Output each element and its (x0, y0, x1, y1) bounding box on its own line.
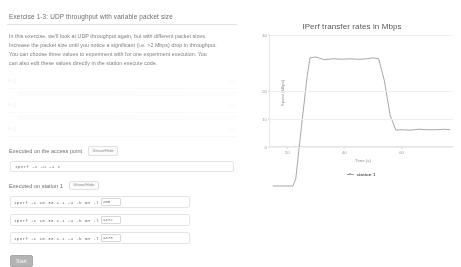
access-point-label: Executed on the access point (9, 148, 82, 154)
chart-x-tick-label: 60 (399, 150, 404, 155)
chart-y-tick-label: 10 (262, 117, 267, 122)
chart-y-tick-mark (268, 119, 270, 120)
collapsed-code-cells: In [ ]: [ ]: In [ ]: [ ]: In [ ]: [ ]: (7, 75, 237, 137)
chart-gridline (270, 91, 453, 92)
chart-x-tick-mark (401, 147, 402, 149)
cell-prompt-left: In [ ]: (8, 78, 17, 83)
title-divider (7, 24, 237, 25)
cell-prompt-right: [ ]: (230, 126, 235, 131)
packet-length-input[interactable] (101, 234, 121, 242)
station-command-prefix: iperf -c 10.33.1.1 -u -b 5M -l (14, 218, 99, 223)
chart-x-tick-label: 20 (285, 150, 290, 155)
exercise-panel: Exercise 1-3: UDP throughput with variab… (0, 0, 243, 266)
description-line-1: In this exercise, we'll look at UDP thro… (9, 32, 237, 41)
chart-y-tick-mark (268, 147, 270, 148)
start-button[interactable]: Start (10, 255, 33, 267)
chart-series-station-1 (270, 35, 453, 218)
description-line-2: Increase the packet size until you notic… (9, 41, 237, 50)
description-line-4: can also edit these values directly in t… (9, 59, 237, 68)
station-showhide-button[interactable]: Show/Hide (69, 181, 99, 190)
code-cell-row[interactable]: In [ ]: [ ]: (7, 99, 237, 113)
chart-y-tick-label: 20 (262, 89, 267, 94)
code-cell-body (17, 115, 237, 120)
chart-x-tick-mark (344, 147, 345, 149)
access-point-command-text: iperf -s -u -i 1 (15, 164, 60, 169)
station-command-prefix: iperf -c 10.33.1.1 -u -b 5M -l (14, 200, 99, 205)
chart-x-tick-label: 40 (342, 150, 347, 155)
exercise-description: In this exercise, we'll look at UDP thro… (9, 32, 237, 68)
legend-marker-icon (347, 174, 354, 175)
chart-plot-area: Speed (Mbps) 0102040204060 (269, 35, 453, 147)
code-cell-row[interactable]: In [ ]: [ ]: (7, 123, 237, 137)
chart-y-tick-label: 0 (265, 145, 267, 150)
station-command-row[interactable]: iperf -c 10.33.1.1 -u -b 5M -l (10, 232, 190, 244)
code-cell-body (17, 91, 237, 96)
chart-title: IPerf transfer rates in Mbps (247, 22, 457, 31)
station-command-row[interactable]: iperf -c 10.33.1.1 -u -b 5M -l (10, 196, 190, 208)
station-section-header: Executed on station 1 Show/Hide (9, 181, 237, 190)
chart-y-tick-mark (268, 35, 270, 36)
chart-gridline (270, 119, 453, 120)
cell-prompt-right: [ ]: (230, 78, 235, 83)
access-point-section-header: Executed on the access point Show/Hide (9, 146, 237, 155)
station-command-prefix: iperf -c 10.33.1.1 -u -b 5M -l (14, 236, 99, 241)
iperf-chart: IPerf transfer rates in Mbps Speed (Mbps… (247, 22, 457, 197)
packet-length-input[interactable] (101, 198, 121, 206)
chart-gridline (270, 35, 453, 36)
chart-x-tick-mark (287, 147, 288, 149)
packet-length-input[interactable] (101, 216, 121, 224)
cell-prompt-left: In [ ]: (8, 102, 17, 107)
access-point-showhide-button[interactable]: Show/Hide (88, 146, 118, 155)
description-line-3: You can choose three values to experimen… (9, 50, 237, 59)
page-title: Exercise 1-3: UDP throughput with variab… (9, 13, 237, 20)
cell-prompt-left: In [ ]: (8, 126, 17, 131)
chart-y-tick-label: 40 (262, 33, 267, 38)
code-cell-row[interactable]: In [ ]: [ ]: (7, 75, 237, 89)
chart-panel: IPerf transfer rates in Mbps Speed (Mbps… (243, 0, 461, 266)
access-point-command-field[interactable]: iperf -s -u -i 1 (10, 161, 234, 172)
station-command-row[interactable]: iperf -c 10.33.1.1 -u -b 5M -l (10, 214, 190, 226)
chart-gridline (270, 147, 453, 148)
station-label: Executed on station 1 (9, 183, 63, 189)
chart-y-tick-mark (268, 91, 270, 92)
cell-prompt-right: [ ]: (230, 102, 235, 107)
